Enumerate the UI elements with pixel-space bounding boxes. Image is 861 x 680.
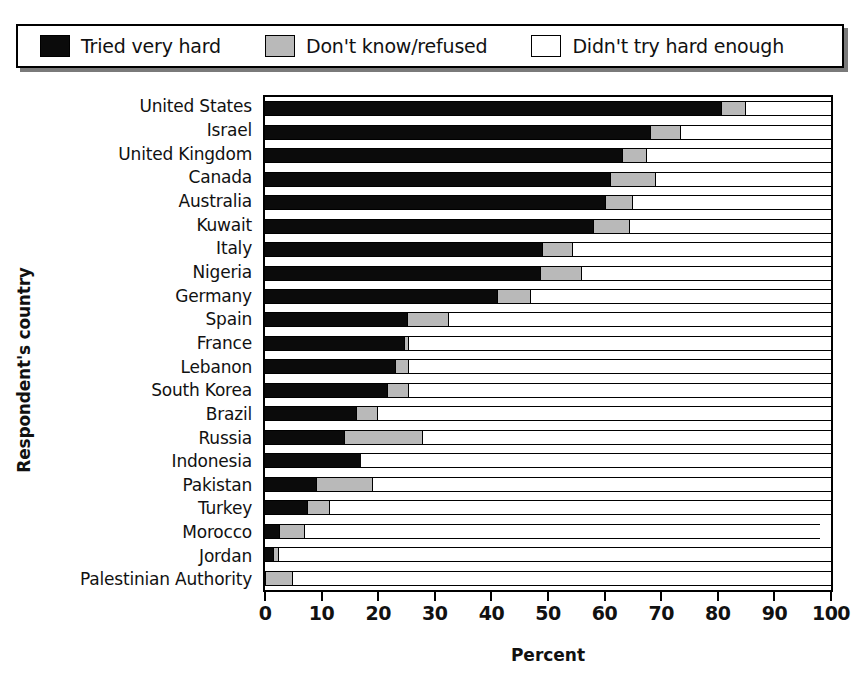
stacked-bar[interactable] <box>265 312 831 327</box>
stacked-bar[interactable] <box>265 125 831 140</box>
y-axis-title: Respondent's country <box>14 170 34 570</box>
bar-segment-didnt-try-hard-enough <box>531 290 831 303</box>
y-axis-tick-label: Lebanon <box>40 360 258 375</box>
bar-segment-didnt-try-hard-enough <box>656 173 831 186</box>
x-axis-tick-label: 90 <box>762 602 787 624</box>
bar-segment-dont-know-refused <box>387 384 410 397</box>
bar-segment-didnt-try-hard-enough <box>423 431 831 444</box>
y-axis-tick-label: Russia <box>40 431 258 446</box>
x-axis-tick-labels: 0102030405060708090100 <box>263 602 833 628</box>
y-axis-tick-label: Nigeria <box>40 265 258 280</box>
stacked-bar[interactable] <box>265 547 831 562</box>
bar-segment-didnt-try-hard-enough <box>582 267 831 280</box>
stacked-bar[interactable] <box>265 477 831 492</box>
bar-segment-didnt-try-hard-enough <box>293 572 831 585</box>
x-axis-tick-label: 0 <box>259 602 272 624</box>
bar-segment-dont-know-refused <box>497 290 531 303</box>
stacked-bar[interactable] <box>265 242 831 257</box>
bar-row <box>265 312 831 327</box>
y-axis-tick-label: South Korea <box>40 383 258 398</box>
bar-segment-dont-know-refused <box>622 149 647 162</box>
y-axis-tick-label: Canada <box>40 170 258 185</box>
black-swatch-icon <box>40 35 70 57</box>
stacked-bar[interactable] <box>265 101 831 116</box>
x-axis-tick-label: 30 <box>422 602 447 624</box>
bar-segment-didnt-try-hard-enough <box>409 337 831 350</box>
bar-segment-didnt-try-hard-enough <box>681 126 831 139</box>
x-axis-tick-label: 40 <box>479 602 504 624</box>
bar-segment-tried-very-hard <box>265 220 593 233</box>
bar-segment-didnt-try-hard-enough <box>330 501 831 514</box>
stacked-bar[interactable] <box>265 430 831 445</box>
bar-segment-tried-very-hard <box>265 173 610 186</box>
bar-segment-didnt-try-hard-enough <box>409 360 831 373</box>
bar-row <box>265 500 831 515</box>
bar-segment-didnt-try-hard-enough <box>361 454 831 467</box>
legend-item-didnt-try-hard-enough: Didn't try hard enough <box>531 26 784 66</box>
stacked-bar[interactable] <box>265 571 831 586</box>
x-axis-tick <box>660 592 662 601</box>
stacked-bar[interactable] <box>265 406 831 421</box>
bar-segment-tried-very-hard <box>265 525 279 538</box>
y-axis-tick-label: Morocco <box>40 525 258 540</box>
stacked-bar[interactable] <box>265 383 831 398</box>
x-axis-tick <box>773 592 775 601</box>
bar-segment-dont-know-refused <box>650 126 681 139</box>
bar-segment-dont-know-refused <box>542 243 573 256</box>
bar-row <box>265 101 831 116</box>
bar-segment-tried-very-hard <box>265 360 395 373</box>
stacked-bar[interactable] <box>265 172 831 187</box>
bar-segment-tried-very-hard <box>265 431 344 444</box>
bar-segment-dont-know-refused <box>593 220 630 233</box>
bar-segment-dont-know-refused <box>344 431 423 444</box>
x-axis-tick-label: 20 <box>365 602 390 624</box>
legend-label: Tried very hard <box>81 35 221 57</box>
stacked-bar[interactable] <box>265 524 820 539</box>
stacked-bar[interactable] <box>265 289 831 304</box>
y-axis-tick-label: United States <box>40 99 258 114</box>
bar-row <box>265 524 831 539</box>
legend-label: Don't know/refused <box>306 35 487 57</box>
bar-segment-dont-know-refused <box>610 173 655 186</box>
y-axis-tick-label: Palestinian Authority <box>40 572 258 587</box>
bar-segment-tried-very-hard <box>265 126 650 139</box>
y-axis-tick-label: Brazil <box>40 407 258 422</box>
x-axis-tick <box>717 592 719 601</box>
y-axis-tick-label: Pakistan <box>40 478 258 493</box>
stacked-bar[interactable] <box>265 219 831 234</box>
x-axis-tick <box>264 592 266 601</box>
x-axis-tick-label: 50 <box>535 602 560 624</box>
bar-row <box>265 148 831 163</box>
y-axis-tick-labels: United StatesIsraelUnited KingdomCanadaA… <box>40 95 258 592</box>
bar-segment-dont-know-refused <box>395 360 409 373</box>
legend-item-dont-know-refused: Don't know/refused <box>265 26 487 66</box>
bar-row <box>265 359 831 374</box>
bar-segment-didnt-try-hard-enough <box>630 220 831 233</box>
bar-segment-dont-know-refused <box>540 267 582 280</box>
bar-segment-tried-very-hard <box>265 407 356 420</box>
x-axis-tick <box>490 592 492 601</box>
bar-row <box>265 172 831 187</box>
bar-row <box>265 125 831 140</box>
stacked-bar[interactable] <box>265 195 831 210</box>
y-axis-tick-label: Spain <box>40 312 258 327</box>
x-axis-tick <box>377 592 379 601</box>
bar-row <box>265 336 831 351</box>
stacked-bar[interactable] <box>265 148 831 163</box>
bar-segment-didnt-try-hard-enough <box>647 149 831 162</box>
stacked-bar[interactable] <box>265 359 831 374</box>
bar-segment-didnt-try-hard-enough <box>378 407 831 420</box>
stacked-bar[interactable] <box>265 500 831 515</box>
bar-segment-didnt-try-hard-enough <box>305 525 820 538</box>
stacked-bar[interactable] <box>265 453 831 468</box>
stacked-bar[interactable] <box>265 336 831 351</box>
bar-row <box>265 289 831 304</box>
bar-segment-tried-very-hard <box>265 102 721 115</box>
chart-plot-area <box>263 95 833 592</box>
bar-row <box>265 453 831 468</box>
bar-row <box>265 571 831 586</box>
stacked-bar[interactable] <box>265 266 831 281</box>
y-axis-tick-label: Jordan <box>40 549 258 564</box>
y-axis-tick-label: United Kingdom <box>40 147 258 162</box>
bar-segment-didnt-try-hard-enough <box>746 102 831 115</box>
